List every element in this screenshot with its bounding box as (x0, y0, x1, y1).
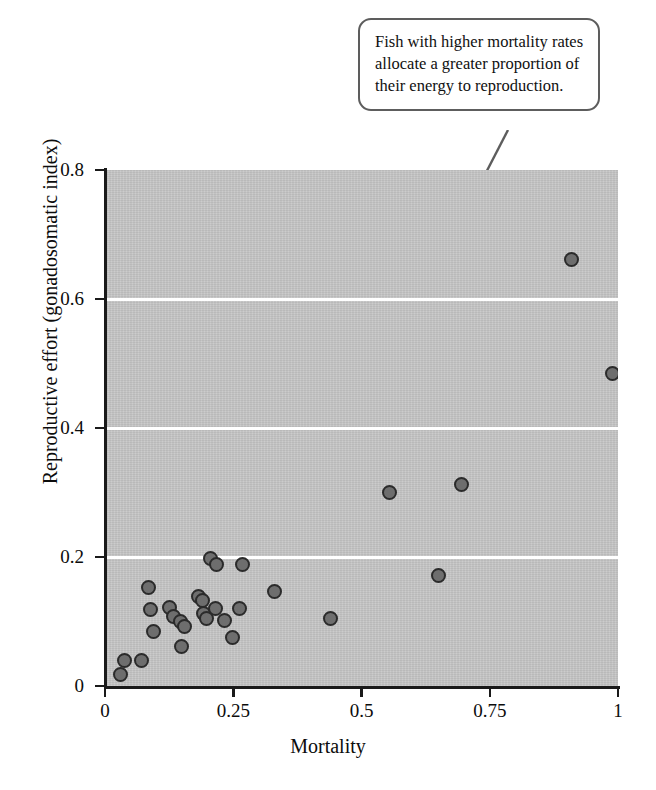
x-tick-label-4: 1 (613, 700, 623, 722)
data-point (209, 557, 224, 572)
y-tick-3 (95, 298, 104, 301)
scatter-plot-figure: Fish with higher mortality rates allocat… (0, 0, 656, 790)
data-point (146, 624, 161, 639)
gridline-y-0.4 (105, 427, 618, 430)
y-tick-0 (95, 685, 104, 688)
data-point (605, 366, 618, 381)
data-point (232, 601, 247, 616)
data-point (113, 667, 128, 682)
data-point (134, 653, 149, 668)
gridline-y-0.6 (105, 298, 618, 301)
x-tick-label-2: 0.5 (350, 700, 374, 722)
y-tick-label-4: 0.8 (60, 159, 84, 181)
page-caption-strip (0, 770, 656, 790)
y-tick-label-3: 0.6 (60, 288, 84, 310)
x-tick-0 (104, 688, 107, 697)
y-tick-label-1: 0.2 (60, 546, 84, 568)
x-axis-title: Mortality (0, 735, 656, 758)
x-tick-1 (232, 688, 235, 697)
data-point (382, 485, 397, 500)
y-tick-label-0: 0 (75, 675, 85, 697)
data-point (564, 252, 579, 267)
x-tick-label-1: 0.25 (217, 700, 250, 722)
data-point (225, 630, 240, 645)
data-point (454, 477, 469, 492)
y-tick-2 (95, 427, 104, 430)
y-axis-line (104, 168, 107, 689)
y-tick-label-2: 0.4 (60, 417, 84, 439)
annotation-callout: Fish with higher mortality rates allocat… (358, 18, 600, 111)
data-point (431, 568, 446, 583)
data-point (267, 584, 282, 599)
x-tick-4 (617, 688, 620, 697)
plot-area (105, 170, 618, 686)
x-tick-2 (360, 688, 363, 697)
x-tick-label-0: 0 (100, 700, 110, 722)
data-point (141, 580, 156, 595)
data-point (177, 619, 192, 634)
data-point (235, 557, 250, 572)
y-axis-title: Reproductive effort (gonadosomatic index… (39, 82, 62, 542)
data-point (323, 611, 338, 626)
x-tick-label-3: 0.75 (473, 700, 506, 722)
gridline-y-0.2 (105, 556, 618, 559)
x-tick-3 (489, 688, 492, 697)
data-point (117, 653, 132, 668)
data-point (174, 639, 189, 654)
data-point (217, 613, 232, 628)
data-point (143, 602, 158, 617)
y-tick-4 (95, 169, 104, 172)
y-tick-1 (95, 556, 104, 559)
